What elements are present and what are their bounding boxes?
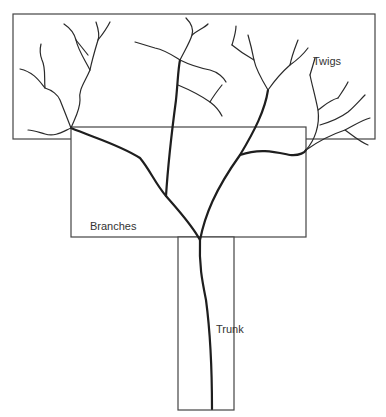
twigs-label: Twigs xyxy=(313,55,341,67)
branches-label: Branches xyxy=(90,220,136,232)
trunk-label: Trunk xyxy=(216,323,244,335)
